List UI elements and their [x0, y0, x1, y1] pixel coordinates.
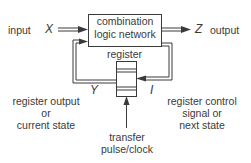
state-symbol-y: Y — [90, 84, 98, 96]
control-desc-line2: signal or — [160, 107, 244, 119]
control-desc-line1: register control — [160, 95, 244, 107]
control-symbol-i: I — [150, 84, 153, 96]
state-desc-line1: register output — [4, 95, 88, 107]
feedback-y-arrowhead — [79, 39, 88, 45]
control-description: register control signal or next state — [160, 95, 244, 131]
control-desc-line3: next state — [160, 119, 244, 131]
control-i-arrowhead — [136, 76, 146, 82]
state-description: register output or current state — [4, 95, 88, 131]
logic-network-label: combination logic network — [88, 15, 162, 41]
input-label: input — [8, 24, 31, 36]
control-i-path — [145, 43, 172, 80]
clock-desc-line1: transfer — [96, 131, 158, 143]
clock-description: transfer pulse/clock — [96, 131, 158, 155]
output-arrow — [162, 26, 191, 33]
output-symbol-z: Z — [195, 23, 202, 35]
logic-network-line2: logic network — [88, 28, 162, 41]
register-box — [117, 62, 137, 97]
output-label: output — [210, 24, 239, 36]
state-desc-line2: or — [4, 107, 88, 119]
state-desc-line3: current state — [4, 119, 88, 131]
clock-arrow — [124, 96, 130, 128]
input-symbol-x: X — [45, 23, 53, 35]
clock-desc-line2: pulse/clock — [96, 143, 158, 155]
input-arrow — [58, 26, 88, 33]
register-label: register — [107, 48, 142, 60]
logic-network-line1: combination — [88, 15, 162, 28]
